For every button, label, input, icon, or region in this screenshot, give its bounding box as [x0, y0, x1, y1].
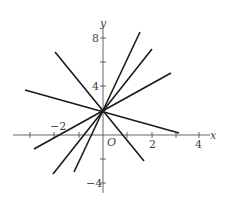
line-1: [74, 32, 140, 172]
x-tick-label-2: 2: [149, 138, 156, 151]
x-tick-label-neg2: −2: [50, 120, 66, 133]
y-tick-label-neg4: −4: [86, 177, 102, 190]
y-tick-label-4: 4: [92, 80, 99, 93]
x-tick-label-4: 4: [195, 138, 202, 151]
y-tick-label-8: 8: [92, 32, 99, 45]
line-family: [25, 32, 179, 174]
line-5: [25, 90, 179, 133]
x-axis-label: x: [210, 129, 217, 142]
y-axis-label: y: [99, 17, 107, 30]
coordinate-plane-diagram: x −2 2 4 y 8 4 −4 O: [0, 0, 225, 203]
line-4: [55, 52, 144, 161]
origin-label: O: [107, 136, 116, 149]
y-axis: y 8 4 −4: [86, 17, 107, 193]
